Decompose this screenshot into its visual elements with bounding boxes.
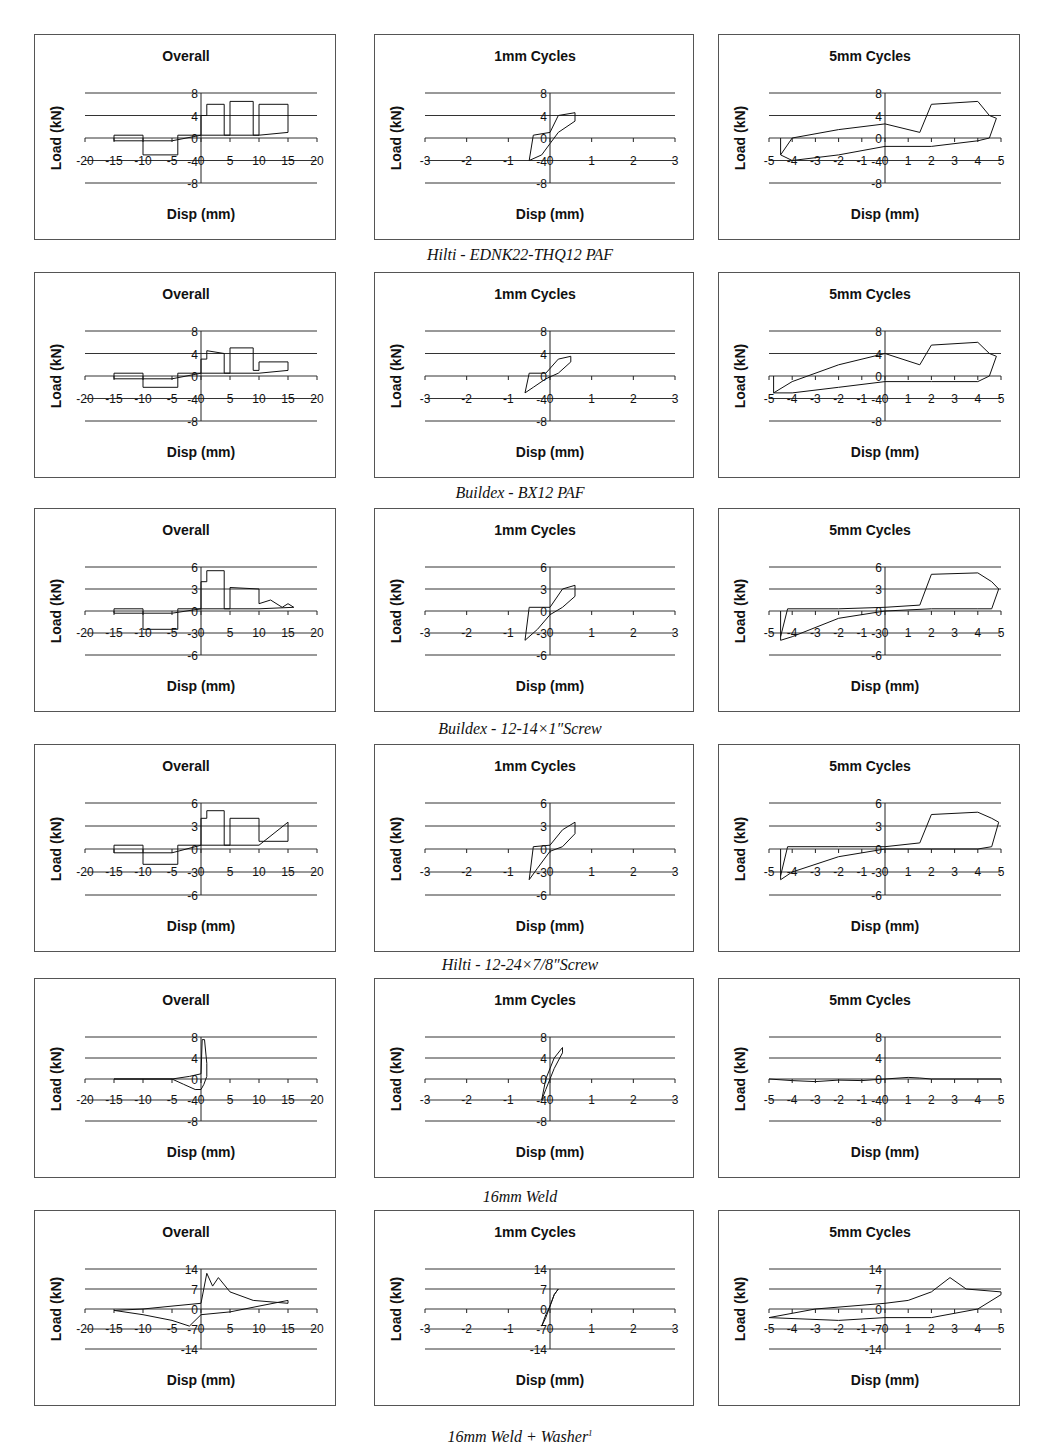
y-axis-label: Load (kN) [732, 817, 748, 882]
y-tick-label: 0 [191, 132, 198, 146]
x-tick-label: -1 [503, 865, 514, 879]
x-tick-label: -5 [764, 392, 775, 406]
x-tick-label: 3 [672, 1322, 679, 1336]
chart-panel-overall: Overall840-4-8-20-15-10-505101520Disp (m… [34, 272, 336, 478]
y-tick-label: -14 [530, 1343, 548, 1357]
x-tick-label: -2 [833, 1322, 844, 1336]
x-tick-label: -20 [76, 865, 94, 879]
x-axis-label: Disp (mm) [851, 444, 919, 460]
x-tick-label: 15 [281, 626, 295, 640]
x-tick-label: 15 [281, 392, 295, 406]
chart-panel-overall: Overall630-3-6-20-15-10-505101520Disp (m… [34, 744, 336, 952]
chart-title: 1mm Cycles [494, 1224, 576, 1240]
y-axis-label: Load (kN) [48, 579, 64, 644]
group-caption: Buildex - BX12 PAF [0, 484, 1040, 502]
x-tick-label: -1 [856, 865, 867, 879]
x-tick-label: -5 [167, 154, 178, 168]
x-axis-label: Disp (mm) [167, 918, 235, 934]
x-axis-label: Disp (mm) [516, 206, 584, 222]
y-tick-label: 7 [875, 1283, 882, 1297]
x-tick-label: 15 [281, 865, 295, 879]
x-tick-label: 5 [227, 154, 234, 168]
chart-panel-5mm-cycles: 5mm Cycles840-4-8-5-4-3-2-1012345Disp (m… [718, 34, 1020, 240]
chart-panel-overall: Overall1470-7-14-20-15-10-505101520Disp … [34, 1210, 336, 1406]
chart-title: 5mm Cycles [829, 992, 911, 1008]
y-tick-label: 8 [191, 1031, 198, 1045]
y-tick-label: -8 [871, 415, 882, 429]
x-tick-label: 10 [252, 392, 266, 406]
y-tick-label: 14 [185, 1263, 199, 1277]
y-axis-label: Load (kN) [732, 344, 748, 409]
y-tick-label: -8 [187, 177, 198, 191]
x-tick-label: 4 [974, 392, 981, 406]
x-tick-label: -20 [76, 1322, 94, 1336]
x-tick-label: 3 [672, 392, 679, 406]
x-tick-label: 20 [310, 1322, 324, 1336]
x-tick-label: -3 [810, 865, 821, 879]
group-caption: 16mm Weld + Washer1 [0, 1428, 1040, 1446]
x-tick-label: 4 [974, 1093, 981, 1107]
x-tick-label: 0 [882, 392, 889, 406]
x-tick-label: 1 [905, 1093, 912, 1107]
y-tick-label: 8 [540, 87, 547, 101]
y-tick-label: 0 [191, 1303, 198, 1317]
x-tick-label: -3 [420, 154, 431, 168]
x-tick-label: 3 [672, 865, 679, 879]
y-tick-label: 7 [540, 1283, 547, 1297]
x-tick-label: 3 [951, 626, 958, 640]
y-tick-label: 6 [540, 797, 547, 811]
x-tick-label: -4 [787, 1093, 798, 1107]
y-tick-label: 6 [191, 797, 198, 811]
x-tick-label: 5 [998, 865, 1005, 879]
y-tick-label: -6 [187, 649, 198, 663]
y-axis-label: Load (kN) [48, 817, 64, 882]
x-tick-label: 5 [998, 154, 1005, 168]
x-tick-label: 2 [630, 392, 637, 406]
y-axis-label: Load (kN) [388, 817, 404, 882]
chart-title: 5mm Cycles [829, 522, 911, 538]
x-tick-label: 2 [928, 626, 935, 640]
x-tick-label: -15 [105, 626, 123, 640]
hysteresis-curve [114, 571, 294, 630]
x-axis-label: Disp (mm) [516, 918, 584, 934]
x-tick-label: -3 [810, 1093, 821, 1107]
y-axis-label: Load (kN) [732, 1277, 748, 1342]
x-axis-label: Disp (mm) [167, 1144, 235, 1160]
x-tick-label: 2 [928, 154, 935, 168]
y-tick-label: 4 [540, 1052, 547, 1066]
y-tick-label: 4 [875, 1052, 882, 1066]
y-axis-label: Load (kN) [388, 106, 404, 171]
x-tick-label: 0 [198, 626, 205, 640]
x-tick-label: 4 [974, 154, 981, 168]
x-tick-label: -2 [461, 154, 472, 168]
x-tick-label: -1 [503, 1093, 514, 1107]
chart-title: 5mm Cycles [829, 286, 911, 302]
chart-title: Overall [162, 992, 209, 1008]
chart-title: Overall [162, 48, 209, 64]
hysteresis-curve [781, 101, 997, 160]
x-tick-label: 2 [630, 865, 637, 879]
x-tick-label: -2 [461, 626, 472, 640]
y-tick-label: -6 [871, 649, 882, 663]
x-tick-label: -5 [764, 1093, 775, 1107]
x-tick-label: 0 [547, 1322, 554, 1336]
x-tick-label: 10 [252, 626, 266, 640]
x-axis-label: Disp (mm) [851, 678, 919, 694]
y-tick-label: -8 [871, 177, 882, 191]
y-axis-label: Load (kN) [48, 106, 64, 171]
x-tick-label: -5 [764, 626, 775, 640]
x-tick-label: 3 [951, 154, 958, 168]
y-tick-label: 3 [540, 583, 547, 597]
x-tick-label: -2 [833, 1093, 844, 1107]
x-tick-label: 0 [882, 626, 889, 640]
x-tick-label: -5 [167, 1093, 178, 1107]
x-tick-label: 0 [198, 392, 205, 406]
y-axis-label: Load (kN) [48, 1277, 64, 1342]
x-tick-label: -10 [134, 392, 152, 406]
chart-title: 1mm Cycles [494, 48, 576, 64]
x-tick-label: 2 [630, 1322, 637, 1336]
x-axis-label: Disp (mm) [516, 678, 584, 694]
y-tick-label: -6 [871, 889, 882, 903]
y-tick-label: 6 [875, 797, 882, 811]
x-tick-label: 1 [588, 154, 595, 168]
